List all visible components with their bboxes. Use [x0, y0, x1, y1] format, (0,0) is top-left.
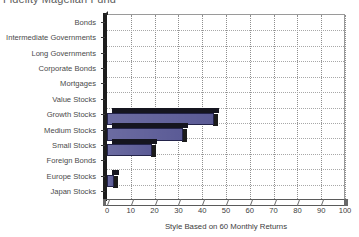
y-axis-tick — [101, 53, 105, 54]
bar — [107, 175, 114, 187]
gridline-vertical — [345, 15, 346, 199]
y-axis-tick — [101, 37, 105, 38]
y-axis-tick — [101, 176, 105, 177]
y-axis-tick — [101, 22, 105, 23]
x-axis-tick-label: 40 — [198, 206, 206, 215]
category-label: Small Stocks — [0, 141, 96, 150]
axis-left-wall — [103, 13, 107, 201]
x-axis-tick-label: 90 — [317, 206, 325, 215]
x-axis-tick-label: 10 — [127, 206, 135, 215]
x-axis-tick-label: 50 — [222, 206, 230, 215]
category-label: Growth Stocks — [0, 110, 96, 119]
x-axis-tick-label: 80 — [293, 206, 301, 215]
x-axis-title: Style Based on 60 Monthly Returns — [107, 222, 345, 231]
x-axis-tick-label: 60 — [246, 206, 254, 215]
y-axis-tick — [101, 99, 105, 100]
gridline-horizontal — [107, 61, 344, 62]
category-label: Medium Stocks — [0, 125, 96, 134]
category-label: Mortgages — [0, 79, 96, 88]
y-axis-tick — [101, 130, 105, 131]
category-axis-labels: BondsIntermediate GovernmentsLong Govern… — [0, 14, 96, 199]
x-axis-tick-label: 100 — [339, 206, 352, 215]
y-axis-tick — [101, 83, 105, 84]
y-axis-tick — [101, 68, 105, 69]
category-label: Long Governments — [0, 48, 96, 57]
gridline-horizontal — [107, 77, 344, 78]
y-axis-tick — [101, 160, 105, 161]
axis-top-skew — [104, 11, 108, 15]
chart-title: Fidelity Magellan Fund — [3, 0, 116, 5]
category-label: Foreign Bonds — [0, 156, 96, 165]
plot-area — [107, 14, 345, 199]
category-label: Europe Stocks — [0, 171, 96, 180]
x-axis-tick-label: 0 — [105, 206, 109, 215]
category-label: Corporate Bonds — [0, 63, 96, 72]
bar-chart: Fidelity Magellan Fund BondsIntermediate… — [0, 0, 359, 237]
category-label: Intermediate Governments — [0, 33, 96, 42]
x-axis-tick-label: 20 — [150, 206, 158, 215]
x-axis-left-edge — [103, 199, 106, 206]
x-axis-tick-label: 70 — [269, 206, 277, 215]
gridline-horizontal — [107, 46, 344, 47]
category-label: Value Stocks — [0, 94, 96, 103]
bar — [107, 144, 152, 156]
category-label: Bonds — [0, 17, 96, 26]
x-axis-line-top — [103, 199, 345, 200]
gridline-horizontal — [107, 92, 344, 93]
gridline-horizontal — [107, 169, 344, 170]
gridline-horizontal — [107, 185, 344, 186]
y-axis-tick — [101, 145, 105, 146]
y-axis-tick — [101, 191, 105, 192]
y-axis-tick — [101, 114, 105, 115]
category-label: Japan Stocks — [0, 187, 96, 196]
gridline-horizontal — [107, 30, 344, 31]
x-axis-tick-label: 30 — [174, 206, 182, 215]
